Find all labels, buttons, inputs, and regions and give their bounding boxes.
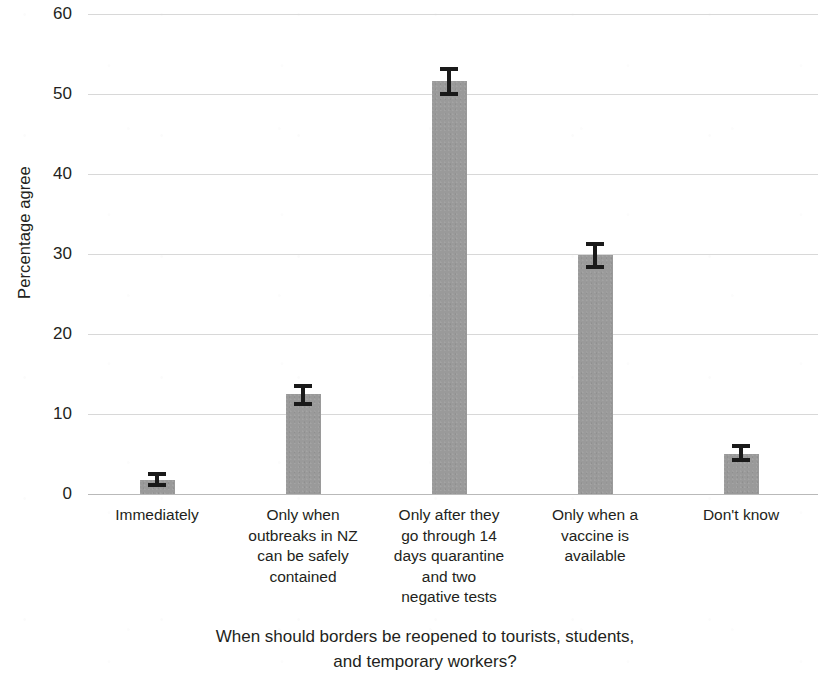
- error-bar-cap: [148, 472, 166, 476]
- y-tick-label: 10: [53, 404, 72, 424]
- error-bar-cap: [440, 92, 458, 96]
- y-tick-label: 0: [63, 484, 72, 504]
- x-tick-label: Don't know: [671, 505, 811, 526]
- y-tick-label: 40: [53, 164, 72, 184]
- bar: [286, 394, 321, 494]
- x-tick-label: Only when outbreaks in NZ can be safely …: [228, 505, 378, 587]
- bar: [578, 255, 613, 494]
- error-bar-cap: [294, 384, 312, 388]
- bar-group: [724, 14, 759, 494]
- error-bar-cap: [294, 402, 312, 406]
- error-bar: [586, 242, 604, 269]
- axis-baseline: 0: [88, 494, 818, 495]
- error-bar-cap: [148, 483, 166, 487]
- bar-group: [432, 14, 467, 494]
- x-axis-tick-labels: ImmediatelyOnly when outbreaks in NZ can…: [88, 505, 818, 615]
- y-tick-label: 30: [53, 244, 72, 264]
- bars-layer: [88, 14, 818, 494]
- bar-chart: Percentage agree 0102030405060 Immediate…: [0, 0, 835, 686]
- x-tick-label: Immediately: [82, 505, 232, 526]
- error-bar-cap: [586, 242, 604, 246]
- y-tick-label: 50: [53, 84, 72, 104]
- error-bar-cap: [732, 444, 750, 448]
- error-bar-cap: [732, 458, 750, 462]
- x-tick-label: Only when a vaccine is available: [525, 505, 665, 567]
- y-tick-label: 60: [53, 4, 72, 24]
- error-bar: [148, 472, 166, 486]
- y-axis-title: Percentage agree: [15, 123, 34, 343]
- y-tick-label: 20: [53, 324, 72, 344]
- error-bar-cap: [586, 265, 604, 269]
- bar-group: [286, 14, 321, 494]
- plot-area: 0102030405060: [88, 14, 818, 494]
- x-tick-label: Only after they go through 14 days quara…: [367, 505, 532, 608]
- x-axis-title: When should borders be reopened to touri…: [60, 624, 790, 674]
- bar-group: [578, 14, 613, 494]
- error-bar: [440, 67, 458, 96]
- error-bar-cap: [440, 67, 458, 71]
- error-bar: [732, 444, 750, 462]
- error-bar: [294, 384, 312, 406]
- bar-group: [140, 14, 175, 494]
- bar: [432, 81, 467, 494]
